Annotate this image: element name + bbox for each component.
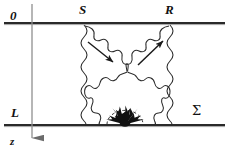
wavy-vertical-from-r: [167, 25, 173, 125]
label-point-r: R: [165, 3, 174, 16]
arrow-left-direction: [88, 42, 113, 62]
wavy-vertical-from-s: [81, 25, 87, 125]
bottom-boundary-line: [4, 125, 225, 127]
label-top-boundary: 0: [10, 9, 17, 22]
label-point-s: S: [79, 3, 86, 16]
wavy-diagonal-r-to-crossing: [126, 26, 169, 72]
burst-source: [106, 106, 144, 127]
label-z-axis: z: [10, 136, 14, 147]
wavy-diagonal-s-to-crossing: [85, 26, 128, 72]
figure-canvas: 0 S R L z Σ: [0, 0, 229, 160]
label-sigma-surface: Σ: [192, 104, 201, 117]
top-boundary-line: [4, 23, 225, 25]
arrow-right-direction: [138, 41, 163, 65]
diagram-svg: [0, 0, 229, 160]
label-bottom-boundary: L: [11, 106, 19, 119]
